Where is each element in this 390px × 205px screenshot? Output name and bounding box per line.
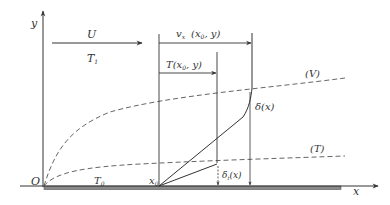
thermal-curve-label: (T) — [310, 143, 325, 154]
x0-label: x0 — [149, 175, 159, 187]
wall-temperature-label: T0 — [94, 175, 105, 187]
velocity-profile-curve — [159, 33, 252, 186]
free-stream-velocity-label: U — [87, 28, 97, 41]
temperature-profile-curve — [159, 164, 217, 186]
velocity-curve-label: (V) — [305, 68, 320, 79]
x-axis-label: x — [353, 185, 360, 198]
thermal-bl-thickness-label: δt(x) — [222, 170, 242, 181]
thermal-boundary-curve — [44, 156, 345, 186]
temperature-profile-label: T(x0, y) — [166, 59, 202, 71]
free-stream-temperature-label: T1 — [87, 52, 98, 65]
velocity-profile-label: vx(x0, y) — [176, 28, 220, 40]
velocity-boundary-curve — [44, 78, 345, 186]
flat-plate — [44, 186, 341, 190]
velocity-bl-thickness-label: δ(x) — [255, 101, 275, 112]
y-axis-label: y — [30, 17, 38, 30]
boundary-layer-diagram: y x O U T1 (V) (T) vx(x0, y) T(x0, y) δ(… — [0, 0, 390, 205]
origin-label: O — [31, 175, 40, 188]
